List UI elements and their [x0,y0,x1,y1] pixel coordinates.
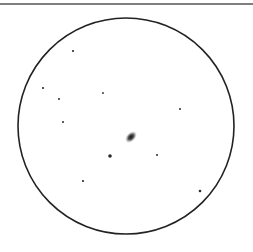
star [72,50,74,52]
star [42,87,44,89]
eyepiece-sketch [0,0,253,252]
sketch-canvas [0,0,253,252]
field-of-view-circle [18,18,234,234]
galaxy [123,129,139,145]
star [199,190,202,193]
star-field [42,50,201,192]
star [156,154,158,156]
star [179,108,181,110]
star [102,92,104,94]
star [58,98,60,100]
star [82,180,84,182]
star [108,154,112,158]
star [62,121,64,123]
